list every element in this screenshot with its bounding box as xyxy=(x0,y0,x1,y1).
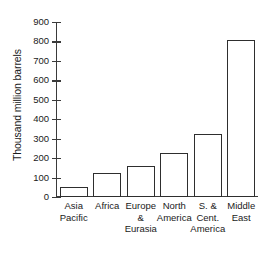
y-tick-label: 700 xyxy=(33,56,49,66)
y-tick-label: 400 xyxy=(33,114,49,124)
bar-chart-figure: Thousand million barrels 010020030040050… xyxy=(0,0,271,256)
x-axis-label-5: Middle East xyxy=(221,200,263,223)
bar-rect xyxy=(127,166,155,197)
y-tick-label: 100 xyxy=(33,173,49,183)
bar-rect xyxy=(60,187,88,197)
bar-rect xyxy=(160,153,188,197)
y-tick-label: 800 xyxy=(33,37,49,47)
y-tick-label: 300 xyxy=(33,134,49,144)
bar-rect xyxy=(194,134,222,197)
y-tick-label: 500 xyxy=(33,95,49,105)
bar-rect xyxy=(93,173,121,197)
y-tick-label: 900 xyxy=(33,17,49,27)
bar-5 xyxy=(227,22,255,197)
y-axis-title: Thousand million barrels xyxy=(9,5,25,205)
bar-1 xyxy=(93,22,121,197)
bar-0 xyxy=(60,22,88,197)
y-tick-mark xyxy=(52,197,61,198)
bars-layer xyxy=(57,22,258,197)
x-axis-labels: Asia PacificAfricaEurope & EurasiaNorth … xyxy=(57,200,258,254)
bar-3 xyxy=(160,22,188,197)
bar-2 xyxy=(127,22,155,197)
y-tick-label: 200 xyxy=(33,153,49,163)
plot-area: 0100200300400500600700800900 xyxy=(57,22,258,197)
y-tick-label: 600 xyxy=(33,76,49,86)
bar-rect xyxy=(227,40,255,198)
bar-4 xyxy=(194,22,222,197)
y-tick-label: 0 xyxy=(44,192,49,202)
